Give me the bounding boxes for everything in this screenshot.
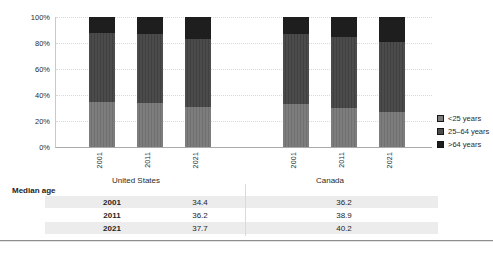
legend-label: <25 years	[448, 114, 492, 123]
legend-swatch-icon	[437, 115, 444, 122]
legend: <25 years25–64 years>64 years	[437, 112, 492, 151]
x-group-label: United States	[76, 176, 196, 185]
bar-segment	[283, 34, 309, 104]
chart-canvas: 0%20%40%60%80%100% 200120112021200120112…	[0, 0, 493, 256]
plot-area	[55, 17, 432, 148]
y-tick-label: 80%	[0, 39, 50, 48]
y-tick-label: 40%	[0, 91, 50, 100]
stacked-bar	[379, 17, 405, 147]
bar-segment	[283, 17, 309, 34]
table-cell-value: 38.9	[322, 211, 366, 220]
bar-segment	[137, 34, 163, 103]
x-category-label: 2011	[338, 152, 345, 168]
table-cell-value: 37.7	[178, 224, 222, 233]
bar-segment	[89, 17, 115, 33]
y-tick-label: 0%	[0, 143, 50, 152]
stacked-bar	[331, 17, 357, 147]
bar-segment	[283, 104, 309, 147]
x-category-label: 2001	[96, 152, 103, 168]
bar-segment	[331, 37, 357, 109]
bar-segment	[331, 17, 357, 37]
stacked-bar	[283, 17, 309, 147]
stacked-bar	[137, 17, 163, 147]
stacked-bar	[185, 17, 211, 147]
table-cell-value: 40.2	[322, 224, 366, 233]
bar-segment	[185, 39, 211, 107]
table-row-year: 2001	[92, 198, 132, 207]
x-category-label: 2001	[290, 152, 297, 168]
legend-item: >64 years	[437, 138, 492, 151]
bar-segment	[137, 17, 163, 34]
y-tick-label: 20%	[0, 117, 50, 126]
y-tick-label: 100%	[0, 13, 50, 22]
table-row-year: 2021	[92, 224, 132, 233]
y-tick-label: 60%	[0, 65, 50, 74]
bar-segment	[89, 102, 115, 148]
bar-segment	[185, 17, 211, 39]
legend-swatch-icon	[437, 128, 444, 135]
table-row-year: 2011	[92, 211, 132, 220]
table-cell-value: 36.2	[178, 211, 222, 220]
bar-segment	[379, 42, 405, 112]
legend-swatch-icon	[437, 141, 444, 148]
bar-segment	[331, 108, 357, 147]
bar-segment	[379, 17, 405, 42]
table-header: Median age	[12, 186, 56, 195]
x-group-label: Canada	[270, 176, 390, 185]
table-column-divider	[245, 184, 246, 236]
x-category-label: 2011	[144, 152, 151, 168]
legend-label: >64 years	[448, 140, 492, 149]
x-category-label: 2021	[386, 152, 393, 168]
bar-segment	[137, 103, 163, 147]
stacked-bar	[89, 17, 115, 147]
bottom-rule	[0, 240, 493, 241]
legend-item: 25–64 years	[437, 125, 492, 138]
table-cell-value: 34.4	[178, 198, 222, 207]
x-category-label: 2021	[192, 152, 199, 168]
bar-segment	[185, 107, 211, 147]
bar-segment	[89, 33, 115, 102]
legend-label: 25–64 years	[448, 127, 492, 136]
table-cell-value: 36.2	[322, 198, 366, 207]
bar-segment	[379, 112, 405, 147]
legend-item: <25 years	[437, 112, 492, 125]
